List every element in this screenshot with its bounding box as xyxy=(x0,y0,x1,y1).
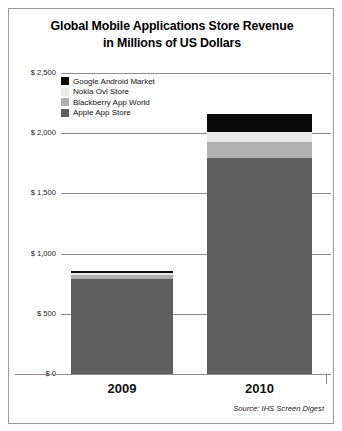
source-note: Source: IHS Screen Digest xyxy=(233,404,324,413)
legend-item-apple-app-store: Apple App Store xyxy=(61,108,155,118)
legend-label-android: Google Android Market xyxy=(73,77,155,86)
bar-segment-2010-blackberry-app-world xyxy=(207,142,312,158)
x-axis-end-tick xyxy=(326,374,327,384)
bar-2009 xyxy=(71,271,173,374)
y-axis-tick-label-1500: $ 1,500 xyxy=(0,188,56,197)
legend-item-google-android-market: Google Android Market xyxy=(61,76,155,86)
plot-area: $ 2,500$ 2,000$ 1,500$ 1,000$ 500$ 02009… xyxy=(9,9,335,425)
legend-swatch-blackberry-icon xyxy=(61,98,69,106)
legend-label-blackberry: Blackberry App World xyxy=(73,98,150,107)
chart-figure: Global Mobile Applications Store Revenue… xyxy=(8,8,334,424)
y-axis-tick-label-1000: $ 1,000 xyxy=(0,249,56,258)
bar-segment-2010-nokia-ovi-store xyxy=(207,132,312,142)
x-axis-label-2009: 2009 xyxy=(71,381,173,396)
x-axis-label-2010: 2010 xyxy=(207,381,312,396)
legend-swatch-android-icon xyxy=(61,77,69,85)
legend-item-nokia-ovi-store: Nokia Ovi Store xyxy=(61,87,155,97)
legend-item-blackberry-app-world: Blackberry App World xyxy=(61,97,155,107)
bar-segment-2009-apple-app-store xyxy=(71,279,173,374)
legend-swatch-apple-icon xyxy=(61,109,69,117)
gridline-2500 xyxy=(61,73,331,74)
chart-legend: Google Android Market Nokia Ovi Store Bl… xyxy=(61,76,155,118)
legend-swatch-nokia-icon xyxy=(61,88,69,96)
bar-segment-2010-apple-app-store xyxy=(207,158,312,374)
x-axis-line xyxy=(15,374,331,375)
bar-2010 xyxy=(207,114,312,374)
y-axis-tick-label-500: $ 500 xyxy=(0,309,56,318)
legend-label-apple: Apple App Store xyxy=(73,108,131,117)
y-axis-tick-label-2000: $ 2,000 xyxy=(0,128,56,137)
bar-segment-2010-google-android-market xyxy=(207,114,312,132)
legend-label-nokia: Nokia Ovi Store xyxy=(73,87,129,96)
y-axis-tick-label-2500: $ 2,500 xyxy=(0,68,56,77)
